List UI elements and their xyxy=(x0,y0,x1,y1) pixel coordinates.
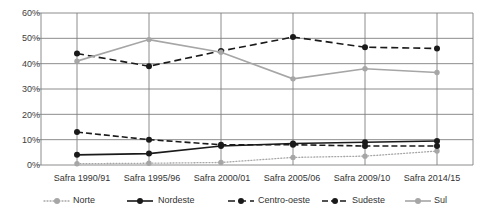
data-point-centro-oeste xyxy=(74,51,80,57)
legend-swatch-marker-centro-oeste[interactable] xyxy=(238,198,244,204)
data-point-norte xyxy=(434,148,439,153)
data-point-sul xyxy=(434,70,439,75)
legend-swatch-marker-nordeste[interactable] xyxy=(137,198,143,204)
data-point-sul xyxy=(146,37,151,42)
data-point-sul xyxy=(362,66,367,71)
x-axis-category-label: Safra 2005/06 xyxy=(257,173,327,183)
data-point-norte xyxy=(218,160,223,165)
series-line-sul xyxy=(77,40,437,79)
data-point-sul xyxy=(218,50,223,55)
data-point-norte xyxy=(290,155,295,160)
y-axis-tick-label: 0% xyxy=(2,160,40,170)
legend-swatch-marker-sul[interactable] xyxy=(415,198,421,204)
series-line-norte xyxy=(77,151,437,164)
data-point-sul xyxy=(290,76,295,81)
chart-container: 60% 50% 40% 30% 20% 10% 0% Safra 1990/91… xyxy=(0,0,499,215)
data-point-norte xyxy=(146,161,151,166)
legend-item-label-sul[interactable]: Sul xyxy=(434,195,447,205)
data-point-centro-oeste xyxy=(146,63,152,69)
y-axis-tick-label: 50% xyxy=(2,33,40,43)
data-point-sudeste xyxy=(146,137,152,143)
data-point-sudeste xyxy=(362,143,368,149)
data-point-centro-oeste xyxy=(362,44,368,50)
legend-item-label-nordeste[interactable]: Nordeste xyxy=(158,195,195,205)
y-axis-tick-label: 10% xyxy=(2,135,40,145)
y-axis-tick-label: 60% xyxy=(2,8,40,18)
data-point-sudeste xyxy=(74,129,80,135)
x-axis-category-label: Safra 2000/01 xyxy=(187,173,257,183)
series-line-sudeste xyxy=(77,132,437,146)
data-point-centro-oeste xyxy=(290,34,296,40)
x-axis-category-label: Safra 1990/91 xyxy=(47,173,117,183)
y-axis-tick-label: 30% xyxy=(2,84,40,94)
data-point-centro-oeste xyxy=(434,45,440,51)
data-point-nordeste xyxy=(146,151,152,157)
data-point-norte xyxy=(74,161,79,166)
data-point-nordeste xyxy=(74,152,80,158)
x-axis-category-label: Safra 2009/10 xyxy=(327,173,397,183)
x-axis-category-label: Safra 2014/15 xyxy=(397,173,467,183)
data-point-norte xyxy=(362,153,367,158)
x-axis-category-label: Safra 1995/96 xyxy=(117,173,187,183)
data-point-sudeste xyxy=(290,142,296,148)
y-axis-tick-label: 40% xyxy=(2,59,40,69)
data-point-sudeste xyxy=(218,142,224,148)
y-axis-tick-label: 20% xyxy=(2,110,40,120)
legend-item-label-sudeste[interactable]: Sudeste xyxy=(352,195,385,205)
data-point-sudeste xyxy=(434,143,440,149)
legend-item-label-centro-oeste[interactable]: Centro-oeste xyxy=(258,195,310,205)
legend-item-label-norte[interactable]: Norte xyxy=(73,195,95,205)
series-line-centro-oeste xyxy=(77,37,437,66)
data-point-sul xyxy=(74,58,79,63)
legend-swatch-marker-norte[interactable] xyxy=(54,198,60,204)
legend-swatch-marker-sudeste[interactable] xyxy=(332,198,338,204)
series-line-nordeste xyxy=(77,141,437,155)
